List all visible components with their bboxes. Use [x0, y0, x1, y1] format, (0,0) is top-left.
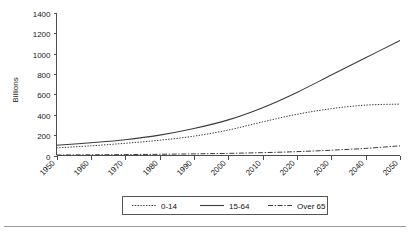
y-tick-label: 200: [37, 132, 51, 141]
y-axis-title: Billions: [11, 77, 20, 102]
y-tick-label: 400: [37, 112, 51, 121]
y-tick-label: 1000: [33, 51, 51, 60]
y-tick-label: 800: [37, 71, 51, 80]
y-tick-label: 1400: [33, 10, 51, 19]
y-tick-label: 1200: [33, 30, 51, 39]
legend-label-15-64: 15-64: [229, 202, 250, 211]
legend-label-0-14: 0-14: [161, 202, 178, 211]
y-tick-label: 600: [37, 91, 51, 100]
legend-label-over-65: Over 65: [297, 202, 326, 211]
population-projection-chart: Billions 0200400600800100012001400 19501…: [0, 0, 410, 236]
legend: 0-1415-64Over 65: [123, 197, 328, 215]
